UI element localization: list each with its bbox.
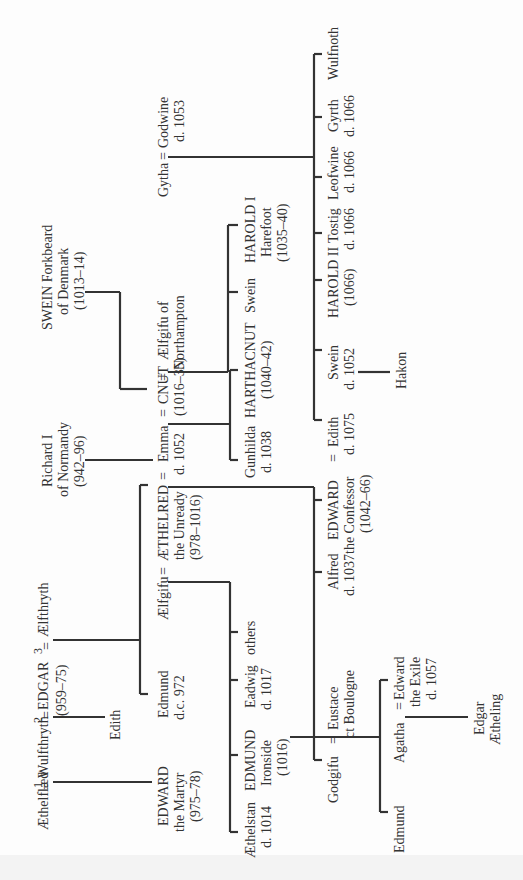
- person-swein-godwinson: Swein: [326, 345, 341, 380]
- person-edward-exile-epithet: the Exile: [408, 657, 423, 707]
- person-aethelred: ÆTHELRED: [156, 485, 171, 561]
- marriage-equals: =: [392, 702, 407, 710]
- person-harold-i: HAROLD I: [243, 196, 258, 263]
- person-edith: Edith: [108, 710, 123, 740]
- person-edward-confessor-epithet: the Confessor: [342, 476, 357, 554]
- person-gyrth-death: d. 1066: [342, 95, 357, 137]
- person-eadwig: Eadwig: [243, 665, 258, 708]
- person-aethelflaed: Æthelflæd: [36, 772, 51, 830]
- person-harold-ii-reign: (1066): [342, 268, 358, 306]
- person-aelfgifu: Ælfgifu: [156, 576, 171, 620]
- person-labels: Æthelflæd = 1 Wulfthryth = 2 EDGAR (959–…: [31, 27, 503, 858]
- person-emma-death: d. 1052: [172, 433, 187, 475]
- person-edith-godwin-death: d. 1075: [342, 413, 357, 455]
- person-gunhilda-death: d. 1038: [259, 431, 274, 473]
- family-tree: Æthelflæd = 1 Wulfthryth = 2 EDGAR (959–…: [0, 0, 523, 880]
- person-edmund-son-of-ironside: Edmund: [392, 806, 407, 853]
- person-leofwine: Leofwine: [326, 146, 341, 200]
- marriage-equals: =: [156, 409, 171, 417]
- person-harold-i-epithet: Harefoot: [259, 207, 274, 257]
- person-agatha: Agatha: [392, 722, 407, 763]
- person-alfred-death: d. 1037: [342, 554, 357, 596]
- marriage-equals: =: [156, 567, 171, 575]
- person-gunhilda: Gunhilda: [243, 425, 258, 478]
- person-swein-forkbeard-reign: (1013–14): [72, 251, 88, 310]
- marriage-number-2: 2: [31, 717, 45, 723]
- person-edmund-ironside-epithet: Ironside: [259, 740, 274, 786]
- person-aelfthryth: Ælfthryth: [36, 583, 51, 637]
- person-aethelstan-death: d. 1014: [259, 806, 274, 848]
- marriage-equals: =: [156, 373, 171, 381]
- person-swein-forkbeard: SWEIN Forkbeard: [40, 225, 55, 330]
- person-godgifu: Godgifu: [326, 756, 341, 803]
- person-edward-exile-death: d. 1057: [424, 658, 439, 700]
- person-edgar-aetheling-title: Ætheling: [488, 694, 503, 745]
- person-edmund-ironside-reign: (1016): [275, 738, 291, 776]
- person-harold-ii: HAROLD II: [326, 247, 341, 318]
- person-wulfthryth: Wulfthryth: [36, 716, 51, 778]
- person-harthacnut: HARTHACNUT: [243, 322, 258, 418]
- person-harthacnut-reign: (1040–42): [259, 340, 275, 399]
- person-richard-title: of Normandy: [56, 422, 71, 497]
- person-edmund-ironside: EDMUND: [243, 730, 258, 791]
- person-edward-confessor: EDWARD: [326, 480, 341, 540]
- person-richard-reign: (942–96): [72, 435, 88, 487]
- person-eadwig-death: d. 1017: [259, 668, 274, 710]
- marriage-number-3: 3: [31, 648, 45, 654]
- person-edward-martyr-reign: (975–78): [188, 770, 204, 822]
- person-gytha: Gytha: [156, 162, 171, 197]
- person-edward-martyr-epithet: the Martyr: [172, 772, 187, 832]
- person-edmund-972: Edmund: [156, 671, 171, 718]
- person-swein-forkbeard-title: of Denmark: [56, 248, 71, 315]
- person-edmund-972-death: d.c. 972: [172, 675, 187, 720]
- person-gyrth: Gyrth: [326, 99, 341, 132]
- person-aelfgifu-northampton-place: Northampton: [172, 295, 187, 370]
- person-tostig-death: d. 1066: [342, 208, 357, 250]
- person-aethelstan: Æthelstan: [243, 802, 258, 858]
- marriage-equals: =: [326, 736, 341, 744]
- person-cnut: CNUT: [156, 365, 171, 404]
- person-edward-confessor-reign: (1042–66): [358, 474, 374, 533]
- person-edward-exile: Edward: [392, 656, 407, 700]
- person-eustace: Eustace: [326, 686, 341, 730]
- person-hakon: Hakon: [394, 352, 409, 389]
- person-aethelred-epithet: the Unready: [172, 491, 187, 560]
- person-edgar-reign: (959–75): [54, 664, 70, 716]
- person-wulfnoth: Wulfnoth: [326, 27, 341, 80]
- person-harold-i-reign: (1035–40): [275, 203, 291, 262]
- person-alfred: Alfred: [326, 553, 341, 590]
- marriage-number-1: 1: [31, 782, 45, 788]
- person-godwine: Godwine: [156, 97, 171, 148]
- person-edward-martyr: EDWARD: [156, 766, 171, 826]
- person-edgar-aetheling: Edgar: [472, 701, 487, 735]
- person-eustace-title: ct Boulogne: [342, 670, 357, 738]
- person-tostig: Tostig: [326, 208, 341, 243]
- person-swein-cnutsson: Swein: [243, 278, 258, 313]
- person-edgar: EDGAR: [36, 661, 51, 710]
- marriage-equals: =: [156, 472, 171, 480]
- person-others: others: [243, 621, 258, 655]
- person-godwine-death: d. 1053: [172, 100, 187, 142]
- marriage-equals: =: [156, 152, 171, 160]
- person-aethelred-reign: (978–1016): [188, 494, 204, 560]
- person-edith-godwin: Edith: [326, 417, 341, 447]
- marriage-equals: =: [326, 454, 341, 462]
- person-emma: Emma: [156, 425, 171, 462]
- person-aelfgifu-northampton: Ælfgifu of: [156, 301, 171, 360]
- person-swein-godwinson-death: d. 1052: [342, 348, 357, 390]
- person-leofwine-death: d. 1066: [342, 151, 357, 193]
- person-richard-normandy: Richard I: [40, 434, 55, 487]
